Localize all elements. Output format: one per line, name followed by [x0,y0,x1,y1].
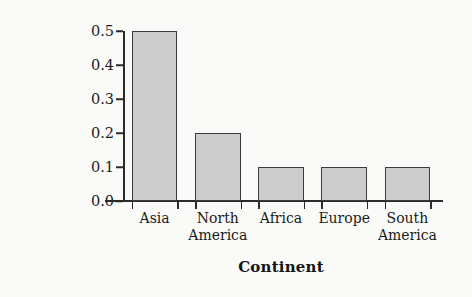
x-axis-tick-mark [195,201,197,209]
x-axis-tick-mark [132,201,134,209]
x-axis-tick-label-line: South [364,210,450,227]
y-axis-tick-labels: 0.00.10.20.30.40.5 [72,0,114,297]
y-axis-tick-label: 0.1 [72,159,114,175]
x-axis-tick-mark [304,201,306,209]
x-axis-tick-label-line: America [364,227,450,244]
y-axis-tick-mark [116,30,123,32]
x-axis-tick-mark [430,201,432,209]
x-axis-tick-label: SouthAmerica [364,210,450,244]
bar [132,31,177,201]
y-axis-tick-label: 0.5 [72,23,114,39]
x-axis-tick-mark [241,201,243,209]
bar [195,133,240,201]
x-axis-tick-mark [177,201,179,209]
bar-slot [123,31,186,201]
bar-slot [376,31,439,201]
bar [385,167,430,201]
x-axis-tick-labels: AsiaNorthAmericaAfricaEuropeSouthAmerica [123,210,439,254]
y-axis-tick-mark [116,64,123,66]
x-axis-tick-mark [385,201,387,209]
y-axis-tick-mark [116,200,123,202]
bar-chart: Relative frequency 0.00.10.20.30.40.5 As… [0,0,472,297]
y-axis-tick-mark [116,166,123,168]
x-axis-tick-mark [258,201,260,209]
y-axis-tick-label: 0.3 [72,91,114,107]
y-axis-tick-mark [116,98,123,100]
y-axis-tick-label: 0.4 [72,57,114,73]
bar [321,167,366,201]
plot-area [123,31,439,201]
x-axis-tick-mark [367,201,369,209]
y-axis-tick-label: 0.2 [72,125,114,141]
x-axis-tick-mark [321,201,323,209]
bar-slot [186,31,249,201]
bar [258,167,303,201]
bar-slot [249,31,312,201]
bar-slot [313,31,376,201]
y-axis-tick-mark [116,132,123,134]
x-axis-tick-label-line: America [175,227,261,244]
x-axis-title: Continent [123,258,439,276]
